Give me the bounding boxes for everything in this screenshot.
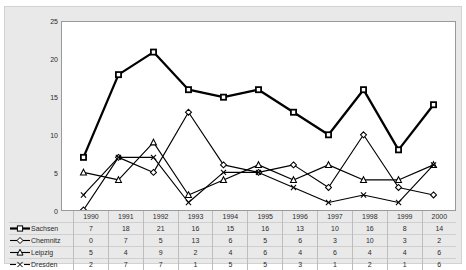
legend-marker-cross bbox=[10, 260, 30, 269]
table-header-row: 1990199119921993199419951996199719981999… bbox=[9, 211, 456, 223]
table-cell: 2 bbox=[178, 247, 213, 259]
table-cell: 16 bbox=[178, 223, 213, 235]
data-point-square bbox=[221, 95, 226, 100]
data-point-diamond bbox=[17, 237, 23, 243]
data-point-triangle bbox=[326, 162, 332, 168]
data-point-cross bbox=[186, 200, 191, 205]
table-cell: 7 bbox=[108, 259, 143, 270]
x-axis-tick-label: 1990 bbox=[74, 211, 109, 223]
data-point-square bbox=[151, 50, 156, 55]
table-cell: 2 bbox=[422, 235, 456, 247]
table-cell: 6 bbox=[318, 247, 353, 259]
legend-swatch bbox=[10, 260, 30, 270]
table-cell: 5 bbox=[143, 235, 178, 247]
data-point-triangle bbox=[256, 162, 262, 168]
table-cell: 3 bbox=[283, 259, 318, 270]
y-axis-tick-label: 20 bbox=[28, 56, 58, 63]
legend-item-leipzig[interactable]: Leipzig bbox=[9, 247, 74, 259]
table-cell: 8 bbox=[387, 223, 422, 235]
table-cell: 6 bbox=[283, 235, 318, 247]
table-cell: 6 bbox=[213, 235, 248, 247]
data-point-square bbox=[256, 87, 261, 92]
legend-swatch bbox=[10, 224, 30, 234]
table-cell: 3 bbox=[387, 235, 422, 247]
table-cell: 5 bbox=[248, 235, 283, 247]
table-row: Sachsen71821161516131016814 bbox=[9, 223, 456, 235]
data-point-square bbox=[81, 155, 86, 160]
y-axis-tick-label: 10 bbox=[28, 132, 58, 139]
y-axis-tick-label: 5 bbox=[28, 170, 58, 177]
table-cell: 2 bbox=[352, 259, 387, 270]
data-point-cross bbox=[81, 192, 86, 197]
table-cell: 7 bbox=[108, 235, 143, 247]
table-cell: 1 bbox=[318, 259, 353, 270]
x-axis-tick-label: 1992 bbox=[143, 211, 178, 223]
table-cell: 10 bbox=[318, 223, 353, 235]
legend-label: Leipzig bbox=[31, 249, 53, 256]
series-sachsen bbox=[81, 50, 436, 160]
legend-label: Dresden bbox=[31, 261, 57, 268]
data-point-triangle bbox=[151, 139, 157, 145]
data-point-diamond bbox=[431, 192, 437, 198]
data-point-square bbox=[396, 147, 401, 152]
data-point-diamond bbox=[291, 162, 297, 168]
data-point-square bbox=[291, 110, 296, 115]
y-axis-tick-label: 15 bbox=[28, 94, 58, 101]
data-point-square bbox=[186, 87, 191, 92]
data-point-square bbox=[361, 87, 366, 92]
legend-label: Sachsen bbox=[31, 225, 58, 232]
data-point-diamond bbox=[326, 184, 332, 190]
plot-svg bbox=[62, 22, 455, 210]
data-point-square bbox=[17, 225, 22, 230]
x-axis-tick-label: 1998 bbox=[352, 211, 387, 223]
table-cell: 4 bbox=[108, 247, 143, 259]
table-cell: 0 bbox=[74, 235, 109, 247]
data-point-diamond bbox=[396, 184, 402, 190]
legend-marker-square bbox=[10, 224, 30, 233]
table-cell: 13 bbox=[178, 235, 213, 247]
table-cell: 2 bbox=[74, 259, 109, 270]
legend-swatch bbox=[10, 248, 30, 258]
table-cell: 18 bbox=[108, 223, 143, 235]
table-cell: 15 bbox=[213, 223, 248, 235]
data-point-diamond bbox=[151, 169, 157, 175]
y-axis-tick-label: 25 bbox=[28, 18, 58, 25]
table-cell: 4 bbox=[213, 247, 248, 259]
y-axis: 0510152025 bbox=[25, 21, 58, 211]
legend-item-chemnitz[interactable]: Chemnitz bbox=[9, 235, 74, 247]
table-cell: 14 bbox=[422, 223, 456, 235]
data-point-cross bbox=[291, 185, 296, 190]
data-point-square bbox=[431, 102, 436, 107]
table-cell: 7 bbox=[143, 259, 178, 270]
x-axis-tick-label: 1996 bbox=[283, 211, 318, 223]
table-cell: 5 bbox=[213, 259, 248, 270]
table-cell: 3 bbox=[318, 235, 353, 247]
data-point-diamond bbox=[186, 109, 192, 115]
plot-area bbox=[61, 21, 456, 211]
data-point-square bbox=[326, 132, 331, 137]
data-point-diamond bbox=[361, 132, 367, 138]
legend-item-dresden[interactable]: Dresden bbox=[9, 259, 74, 270]
table-cell: 4 bbox=[387, 247, 422, 259]
table-cell: 6 bbox=[422, 247, 456, 259]
legend-marker-diamond bbox=[10, 236, 30, 245]
legend-item-sachsen[interactable]: Sachsen bbox=[9, 223, 74, 235]
legend-marker-triangle bbox=[10, 248, 30, 257]
table-corner-cell bbox=[9, 211, 74, 223]
table-cell: 16 bbox=[352, 223, 387, 235]
table-cell: 7 bbox=[74, 223, 109, 235]
series-leipzig bbox=[80, 139, 436, 197]
table-cell: 5 bbox=[74, 247, 109, 259]
table-cell: 9 bbox=[143, 247, 178, 259]
table-cell: 21 bbox=[143, 223, 178, 235]
table-row: Leipzig54924646446 bbox=[9, 247, 456, 259]
data-table: 1990199119921993199419951996199719981999… bbox=[9, 211, 456, 270]
x-axis-tick-label: 1997 bbox=[318, 211, 353, 223]
table-cell: 1 bbox=[178, 259, 213, 270]
table-cell: 4 bbox=[283, 247, 318, 259]
table-row: Chemnitz0751365631032 bbox=[9, 235, 456, 247]
x-axis-tick-label: 1993 bbox=[178, 211, 213, 223]
x-axis-tick-label: 1995 bbox=[248, 211, 283, 223]
legend-swatch bbox=[10, 236, 30, 246]
table-cell: 13 bbox=[283, 223, 318, 235]
